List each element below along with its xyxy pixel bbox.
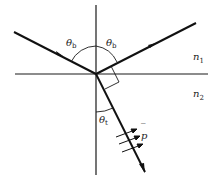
transmitted-arrow-icon [139, 163, 145, 173]
polarization-bar: ‾ [141, 122, 146, 132]
medium2-label: n2 [193, 88, 204, 102]
transmitted-angle-label: θt [99, 114, 108, 127]
transmitted-angle-arc [96, 108, 113, 112]
polarization-arrows [116, 129, 143, 152]
brewster-angle-diagram: θb θb θt n1 n2 p ‾ [0, 0, 217, 180]
incident-arrow-icon [56, 51, 63, 56]
incident-angle-label: θb [66, 37, 77, 50]
incident-ray [14, 32, 96, 74]
reflected-angle-label: θb [106, 37, 117, 50]
medium1-label: n1 [193, 51, 204, 65]
